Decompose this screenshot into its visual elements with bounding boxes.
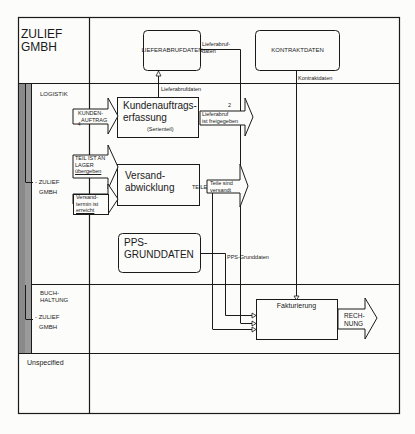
event-lieferabruf-freigegeben[interactable]: Lieferabruf ist freigegeben	[202, 111, 238, 124]
kundenauftragserfassung-box[interactable]: Kundenauftrags- erfassung (Serienteil)	[123, 100, 199, 133]
event-teil-lager-line3: übergeben	[75, 168, 105, 175]
flow-label-kontraktdaten: Kontraktdaten	[298, 75, 332, 82]
fakturierung-box[interactable]: Fakturierung	[256, 302, 337, 309]
kundenauftrag-function-line1: Kundenauftrags-	[123, 100, 199, 112]
flow-label-pps-grunddaten: PPS-Grunddaten	[227, 254, 269, 261]
flow-label-lieferabrufdaten-in: Lieferabrufdaten	[161, 86, 201, 93]
lane-buchhaltung-label-line2: HALTUNG	[40, 297, 68, 304]
event-versandtermin-line1: Versand-	[76, 194, 98, 201]
event-lieferabruf-line2: ist freigegeben	[202, 118, 238, 125]
lane-logistik-sublabel-line2: GMBH	[35, 189, 59, 196]
pps-grunddaten-box[interactable]: PPS- GRUNDDATEN	[124, 237, 200, 261]
versand-function-line1: Versand-	[125, 170, 195, 182]
lane-buchhaltung-label-line1: BUCH-	[40, 290, 68, 297]
event-kundenauftrag[interactable]: KUNDEN- AUFTRAG 4	[78, 110, 107, 127]
kundenauftrag-function-line2: erfassung	[123, 112, 199, 124]
lieferabrufdaten-box[interactable]: LIEFERABRUFDATEN	[144, 31, 200, 70]
kontraktdaten-label: KONTRAKTDATEN	[271, 47, 324, 54]
event-rechnung-line1: RECH-	[344, 312, 365, 320]
event-kundenauftrag-number: 4	[78, 123, 107, 127]
fakturierung-label: Fakturierung	[277, 302, 316, 309]
diagram-canvas	[0, 0, 415, 434]
event-lieferabruf-number: 2	[228, 102, 231, 109]
versand-function-line2: abwicklung	[125, 182, 195, 194]
organization-title: ZULIEF GMBH	[21, 28, 62, 54]
event-teile-versandt[interactable]: Teile sind versandt	[210, 180, 233, 193]
event-teile-versandt-line2: versandt	[210, 187, 233, 194]
pps-label-line1: PPS-	[124, 237, 200, 249]
kundenauftrag-function-note: (Serienteil)	[123, 126, 199, 133]
organization-name-line2: GMBH	[21, 41, 62, 54]
lane-logistik-sublabel: - ZULIEF GMBH	[35, 179, 59, 196]
lane-buchhaltung-sublabel-line2: GMBH	[35, 324, 59, 331]
lane-buchhaltung-sublabel-line1: - ZULIEF	[35, 314, 59, 321]
lane-buchhaltung-label: BUCH- HALTUNG	[40, 290, 68, 304]
event-teil-an-lager[interactable]: TEIL IST AN LAGER übergeben	[75, 155, 105, 175]
lane-logistik-label: LOGISTIK	[40, 91, 68, 98]
event-versandtermin-line3: erreicht	[76, 207, 98, 214]
kontraktdaten-box[interactable]: KONTRAKTDATEN	[256, 31, 339, 70]
lane-buchhaltung-sublabel: - ZULIEF GMBH	[35, 314, 59, 331]
flow-label-teile: TEILE	[192, 184, 207, 191]
flow-lieferabrufdaten-out-line1: Lieferabruf-	[202, 41, 230, 48]
lane-unspecified-label: Unspecified	[27, 359, 64, 366]
lieferabrufdaten-label: LIEFERABRUFDATEN	[141, 47, 202, 54]
lane-logistik-sublabel-line1: - ZULIEF	[35, 179, 59, 186]
flow-label-lieferabrufdaten-out: Lieferabruf- daten	[202, 41, 230, 54]
event-rechnung-line2: NUNG	[344, 320, 365, 328]
event-teil-lager-line1: TEIL IST AN	[75, 155, 105, 162]
event-versandtermin[interactable]: Versand- termin ist erreicht	[76, 194, 98, 214]
lane-bars	[19, 84, 33, 353]
event-kundenauftrag-line2: AUFTRAG	[78, 117, 107, 124]
pps-label-line2: GRUNDDATEN	[124, 249, 200, 261]
flow-lieferabrufdaten-out-line2: daten	[202, 48, 230, 55]
event-kundenauftrag-line1: KUNDEN-	[78, 110, 107, 117]
event-teile-versandt-line1: Teile sind	[210, 180, 233, 187]
event-rechnung[interactable]: RECH- NUNG	[344, 312, 365, 328]
versandabwicklung-box[interactable]: Versand- abwicklung	[125, 170, 195, 194]
